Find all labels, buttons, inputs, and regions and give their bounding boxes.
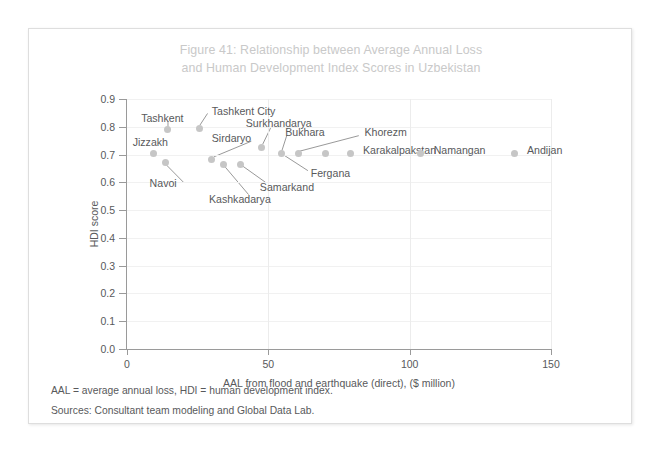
figure-page: Figure 41: Relationship between Average … bbox=[0, 0, 662, 456]
x-axis-tick-label: 50 bbox=[262, 358, 274, 370]
data-point-label: Kashkadarya bbox=[209, 193, 271, 205]
y-axis-tick-label: 0.3 bbox=[100, 260, 115, 272]
gridline-horizontal bbox=[127, 266, 551, 267]
y-axis-tick-label: 0.1 bbox=[100, 315, 115, 327]
y-axis-tick bbox=[119, 293, 126, 294]
y-axis-tick bbox=[119, 266, 126, 267]
gridline-horizontal bbox=[127, 210, 551, 211]
y-axis-tick-label: 0.4 bbox=[100, 232, 115, 244]
data-point-label: Tashkent City bbox=[212, 105, 276, 117]
data-point[interactable] bbox=[295, 150, 302, 157]
gridline-horizontal bbox=[127, 238, 551, 239]
data-point[interactable] bbox=[417, 150, 424, 157]
gridline-horizontal bbox=[127, 293, 551, 294]
data-point[interactable] bbox=[258, 144, 265, 151]
y-axis-tick-label: 0.0 bbox=[100, 343, 115, 355]
data-point[interactable] bbox=[347, 150, 354, 157]
x-axis-tick-label: 0 bbox=[124, 358, 130, 370]
y-axis-tick-label: 0.5 bbox=[100, 204, 115, 216]
y-axis-tick bbox=[119, 127, 126, 128]
gridline-vertical bbox=[410, 99, 411, 349]
gridline-horizontal bbox=[127, 182, 551, 183]
y-axis-tick bbox=[119, 182, 126, 183]
gridline-horizontal bbox=[127, 321, 551, 322]
note-abbreviations: AAL = average annual loss, HDI = human d… bbox=[51, 381, 611, 401]
x-axis-tick bbox=[410, 349, 411, 355]
label-leader-line bbox=[200, 113, 208, 125]
y-axis-tick bbox=[119, 99, 126, 100]
gridline-horizontal bbox=[127, 99, 551, 100]
leader-lines bbox=[127, 99, 551, 349]
data-point-label: Navoi bbox=[150, 177, 177, 189]
x-axis-tick bbox=[127, 349, 128, 355]
y-axis-tick bbox=[119, 155, 126, 156]
data-point[interactable] bbox=[278, 150, 285, 157]
data-point-label: Jizzakh bbox=[133, 136, 168, 148]
data-point-label: Sirdaryo bbox=[212, 132, 251, 144]
data-point-label: Bukhara bbox=[285, 126, 324, 138]
y-axis-tick-label: 0.6 bbox=[100, 176, 115, 188]
gridline-horizontal bbox=[127, 155, 551, 156]
label-leader-line bbox=[284, 155, 308, 171]
data-point[interactable] bbox=[196, 125, 203, 132]
data-point[interactable] bbox=[237, 161, 244, 168]
data-point-label: Samarkand bbox=[260, 181, 314, 193]
x-axis-tick-label: 150 bbox=[542, 358, 560, 370]
data-point[interactable] bbox=[220, 161, 227, 168]
x-axis-tick bbox=[268, 349, 269, 355]
x-axis-tick-label: 100 bbox=[401, 358, 419, 370]
data-point-label: Tashkent bbox=[141, 112, 183, 124]
y-axis-tick-label: 0.7 bbox=[100, 149, 115, 161]
gridline-horizontal bbox=[127, 127, 551, 128]
data-point[interactable] bbox=[208, 156, 215, 163]
data-point[interactable] bbox=[162, 159, 169, 166]
plot-area: HDI score AAL from flood and earthquake … bbox=[29, 29, 633, 425]
data-point-label: Namangan bbox=[434, 144, 486, 156]
data-point-label: Khorezm bbox=[364, 126, 406, 138]
gridline-vertical bbox=[268, 99, 269, 349]
data-point-label: Karakalpakstan bbox=[363, 144, 436, 156]
y-axis-tick-label: 0.2 bbox=[100, 287, 115, 299]
y-axis-tick bbox=[119, 349, 126, 350]
y-axis-tick bbox=[119, 210, 126, 211]
y-axis-tick-label: 0.9 bbox=[100, 93, 115, 105]
data-point[interactable] bbox=[511, 150, 518, 157]
data-point[interactable] bbox=[164, 126, 171, 133]
data-point-label: Fergana bbox=[311, 167, 350, 179]
y-axis-tick bbox=[119, 238, 126, 239]
label-leader-line bbox=[225, 166, 249, 194]
data-point-label: Andijan bbox=[527, 144, 562, 156]
y-axis-tick bbox=[119, 321, 126, 322]
data-point[interactable] bbox=[322, 150, 329, 157]
note-sources: Sources: Consultant team modeling and Gl… bbox=[51, 401, 611, 421]
data-point[interactable] bbox=[150, 150, 157, 157]
scatter-plot: HDI score AAL from flood and earthquake … bbox=[126, 99, 551, 350]
figure-notes: AAL = average annual loss, HDI = human d… bbox=[51, 381, 611, 421]
gridline-vertical bbox=[551, 99, 552, 349]
x-axis-tick bbox=[551, 349, 552, 355]
y-axis-title: HDI score bbox=[88, 201, 100, 248]
y-axis-tick-label: 0.8 bbox=[100, 121, 115, 133]
figure-card: Figure 41: Relationship between Average … bbox=[28, 28, 632, 424]
